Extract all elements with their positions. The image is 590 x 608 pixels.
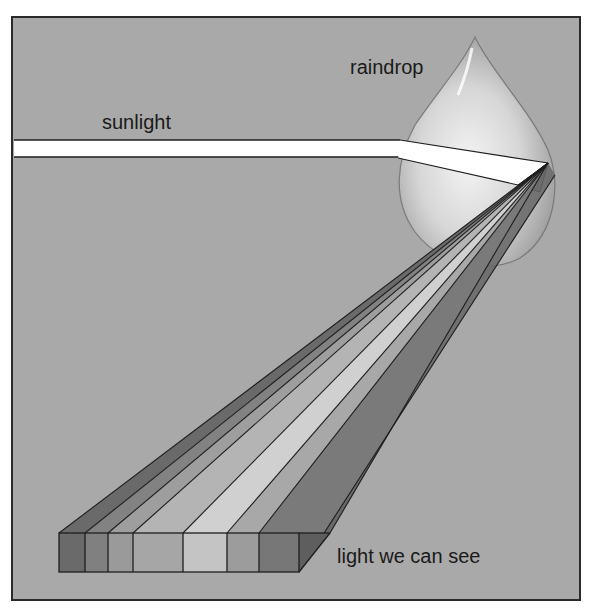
band-6 [227, 533, 259, 572]
raindrop-label: raindrop [350, 57, 423, 77]
band-7 [259, 533, 299, 572]
spectrum-block [59, 533, 330, 572]
band-1 [59, 533, 85, 572]
band-5 [183, 533, 227, 572]
sunlight-beam [14, 140, 400, 157]
diagram-canvas [0, 0, 590, 608]
band-3 [108, 533, 133, 572]
band-2 [85, 533, 108, 572]
rainbow-diagram: sunlight raindrop light we can see [0, 0, 590, 608]
band-4 [133, 533, 183, 572]
visible-light-label: light we can see [337, 546, 480, 566]
sunlight-label: sunlight [102, 112, 171, 132]
